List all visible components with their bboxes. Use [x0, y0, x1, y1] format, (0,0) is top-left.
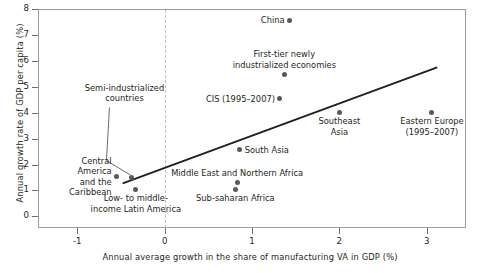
data-point-china — [287, 18, 292, 23]
x-tick-2 — [339, 228, 340, 234]
x-tick-label-1: 1 — [242, 236, 262, 246]
y-tick-2 — [32, 165, 38, 166]
point-label-central: Central America and the Caribbean — [69, 156, 112, 198]
x-tick-label-3: 3 — [417, 236, 437, 246]
x-tick-label-2: 2 — [329, 236, 349, 246]
point-label-middle-east-and-northern-africa: Middle East and Northern Africa — [171, 168, 303, 179]
point-label-southeast: Southeast Asia — [318, 116, 360, 137]
data-point-sub-saharan-africa — [233, 187, 238, 192]
y-tick-label-2: 2 — [16, 159, 29, 169]
y-tick-label-6: 6 — [16, 55, 29, 65]
data-point-low-to-middle — [133, 187, 138, 192]
y-tick-label-3: 3 — [16, 133, 29, 143]
point-label-low-to-middle: Low- to middle- income Latin America — [91, 193, 181, 214]
point-label-eastern-europe: Eastern Europe (1995–2007) — [400, 116, 463, 137]
x-tick-0 — [165, 228, 166, 234]
data-point-middle-east-and-northern-africa — [235, 180, 240, 185]
y-tick-7 — [32, 35, 38, 36]
x-axis-title: Annual average growth in the share of ma… — [48, 252, 452, 262]
x-tick-label--1: -1 — [67, 236, 87, 246]
y-tick-5 — [32, 87, 38, 88]
y-tick-label-4: 4 — [16, 107, 29, 117]
point-label-cis-1995-2007: CIS (1995–2007) — [206, 94, 275, 105]
scatter-chart-figure: Annual growth rate of GDP per capita (%)… — [0, 0, 477, 273]
y-tick-8 — [32, 9, 38, 10]
point-label-first-tier-newly: First-tier newly industrialized economie… — [233, 49, 336, 70]
y-tick-label-0: 0 — [16, 210, 29, 220]
y-tick-4 — [32, 113, 38, 114]
x-tick-1 — [252, 228, 253, 234]
y-tick-1 — [32, 190, 38, 191]
y-tick-3 — [32, 139, 38, 140]
x-tick--1 — [77, 228, 78, 234]
point-label-semi-industrialized: Semi-industrialized countries — [85, 83, 165, 104]
data-point-first-tier-newly — [282, 72, 287, 77]
point-label-china: China — [261, 15, 285, 26]
y-tick-label-1: 1 — [16, 184, 29, 194]
point-label-south-asia: South Asia — [245, 145, 289, 156]
y-tick-label-8: 8 — [16, 3, 29, 13]
point-label-sub-saharan-africa: Sub-saharan Africa — [196, 193, 275, 204]
y-tick-label-5: 5 — [16, 81, 29, 91]
y-tick-0 — [32, 216, 38, 217]
y-tick-6 — [32, 61, 38, 62]
data-point-southeast — [337, 110, 342, 115]
y-tick-label-7: 7 — [16, 29, 29, 39]
x-tick-label-0: 0 — [155, 236, 175, 246]
x-tick-3 — [427, 228, 428, 234]
